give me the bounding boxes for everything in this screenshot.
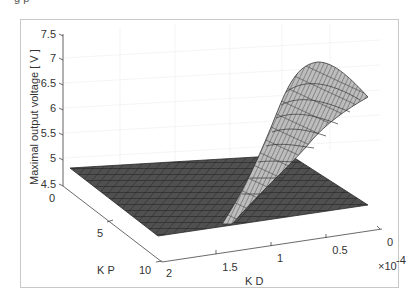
- z-axis-label: Maximal output voltage [ V ]: [28, 49, 40, 185]
- surface-plot: 7.5 7 6.5 6 5.5 5 4.5 Maximal output vol…: [0, 0, 414, 304]
- svg-text:6.5: 6.5: [41, 77, 56, 89]
- svg-text:7: 7: [50, 52, 56, 64]
- svg-text:2: 2: [166, 267, 172, 279]
- flat-surface: [70, 155, 368, 236]
- svg-text:6: 6: [50, 102, 56, 114]
- svg-text:0: 0: [49, 192, 55, 204]
- svg-text:5.5: 5.5: [41, 127, 56, 139]
- kd-exponent-label: ×10: [378, 260, 397, 272]
- svg-text:7.5: 7.5: [41, 28, 56, 40]
- svg-text:0.5: 0.5: [332, 244, 347, 256]
- z-tick-labels: 7.5 7 6.5 6 5.5 5 4.5: [41, 28, 56, 190]
- svg-text:4.5: 4.5: [41, 178, 56, 190]
- svg-text:1: 1: [277, 252, 283, 264]
- kd-axis-line: [162, 229, 382, 262]
- kp-axis-label: K P: [97, 264, 115, 276]
- svg-text:1.5: 1.5: [222, 261, 237, 273]
- kd-tick-labels: 2 1.5 1 0.5 0: [166, 236, 393, 279]
- chart-figure: g p: [0, 0, 414, 304]
- kd-exponent-power: -4: [396, 254, 406, 266]
- svg-text:5: 5: [97, 227, 103, 239]
- svg-text:10: 10: [139, 264, 151, 276]
- svg-text:0: 0: [387, 236, 393, 248]
- svg-text:5: 5: [50, 152, 56, 164]
- kd-axis-label: K D: [245, 275, 263, 287]
